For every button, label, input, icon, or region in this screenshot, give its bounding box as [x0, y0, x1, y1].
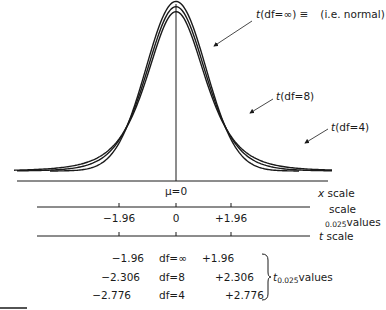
critical-values-table: −1.96 df=∞ +1.96 −2.306 df=8 +2.306 −2.7…: [92, 252, 333, 301]
z-scale-label-bottom: 0.025values: [325, 216, 381, 229]
upper-value: +2.306: [215, 271, 254, 283]
upper-value: +1.96: [202, 252, 234, 264]
upper-value: +2.776: [225, 289, 264, 301]
df-label: df=8: [159, 271, 185, 283]
label-df4-arrow: [305, 129, 328, 143]
label-df8-arrow: [250, 99, 273, 113]
mean-label: μ=0: [165, 185, 187, 197]
label-df4-text: t(df=4): [331, 121, 369, 133]
z-tick-label: +1.96: [215, 212, 247, 224]
df-label: df=4: [159, 289, 185, 301]
z-scale-label-top: scale: [329, 203, 356, 215]
z-tick-label: −1.96: [103, 212, 135, 224]
lower-value: −2.776: [92, 289, 131, 301]
lower-value: −1.96: [112, 252, 144, 264]
label-df4: t(df=4): [305, 121, 369, 143]
t-values-group-label: t0.025values: [273, 271, 333, 285]
table-row: −2.776 df=4 +2.776: [92, 289, 264, 301]
label-normal-text: t(df=∞) ≡(i.e. normal): [256, 8, 385, 20]
x-scale-label: x scale: [317, 187, 355, 199]
label-df8-text: t(df=8): [276, 90, 314, 102]
label-df8: t(df=8): [250, 90, 314, 113]
z-tick-label: 0: [173, 212, 180, 224]
table-row: −2.306 df=8 +2.306: [101, 271, 254, 283]
table-row: −1.96 df=∞ +1.96: [112, 252, 235, 264]
label-normal: t(df=∞) ≡(i.e. normal): [214, 8, 385, 46]
df-label: df=∞: [159, 252, 187, 264]
lower-value: −2.306: [101, 271, 140, 283]
curves-group: [14, 1, 332, 171]
curve-normal: [50, 1, 299, 171]
label-normal-arrow: [214, 21, 252, 46]
t-scale-label: t scale: [319, 230, 354, 242]
t-distribution-diagram: t(df=∞) ≡(i.e. normal) t(df=8) t(df=4) μ…: [0, 0, 386, 310]
curve-df8: [17, 7, 332, 171]
